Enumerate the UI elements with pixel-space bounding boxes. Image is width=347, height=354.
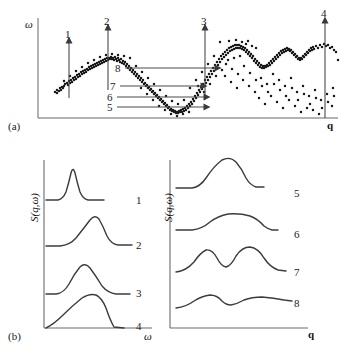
curve-6: [176, 214, 278, 230]
curve-label-5: 5: [294, 187, 300, 199]
curve-3: [46, 265, 130, 294]
panel-b-tag: (b): [8, 330, 21, 342]
curve-label-2: 2: [136, 239, 142, 251]
curve-label-4: 4: [136, 320, 142, 332]
panel-b-left-x-axis-label: ω: [144, 330, 152, 342]
curve-label-1: 1: [136, 194, 142, 206]
curve-7: [176, 247, 286, 272]
scan-label-1: 1: [65, 28, 71, 40]
curve-label-6: 6: [294, 228, 300, 240]
curve-4: [46, 294, 124, 328]
scan-label-8: 8: [115, 62, 121, 74]
dispersion-points: [54, 39, 340, 118]
curve-label-7: 7: [294, 266, 300, 278]
figure-container: ω q (a) 1 2 3 4 8 7 6 5 S(: [0, 0, 347, 354]
panel-a-y-axis-label: ω: [25, 18, 33, 30]
curve-2: [46, 217, 132, 246]
panel-a-tag: (a): [8, 120, 20, 132]
scan-label-2: 2: [104, 15, 110, 27]
curve-8: [176, 295, 292, 308]
panel-b-right-x-axis-label: q: [308, 328, 314, 340]
panel-a-x-axis-label: q: [327, 119, 333, 131]
curve-1: [46, 170, 104, 201]
panel-a-plot: [0, 0, 347, 140]
panel-b-plots: [0, 148, 347, 354]
curve-5: [176, 158, 264, 188]
curve-label-3: 3: [136, 287, 142, 299]
curve-label-8: 8: [294, 297, 300, 309]
panel-b-right-y-axis-label: S(q,ω): [162, 193, 174, 222]
scan-label-3: 3: [201, 15, 207, 27]
panel-b-left-y-axis-label: S(q,ω): [28, 193, 40, 222]
sqw-omega-curves: [46, 170, 132, 329]
scan-label-4: 4: [321, 7, 327, 19]
sqw-q-curves: [176, 158, 292, 308]
constant-omega-scan-arrows: [117, 68, 218, 107]
scan-label-5: 5: [107, 101, 113, 113]
